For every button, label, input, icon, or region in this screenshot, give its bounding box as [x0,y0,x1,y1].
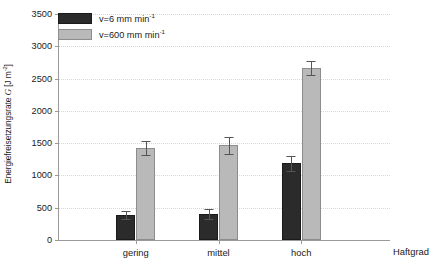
y-tick-label: 3500 [32,9,52,19]
y-tick-label: 3000 [32,41,52,51]
y-tick-label: 2000 [32,106,52,116]
y-axis-title-units-exponent: -2 [2,66,8,71]
x-axis-title: Haftgrad [393,246,429,257]
y-tick-label: 1500 [32,138,52,148]
x-tick-label-gering: gering [123,247,149,258]
bar-gering-series-1 [136,148,155,240]
error-bar-hoch-series-1 [311,61,312,75]
y-tick-mark [55,208,59,209]
error-bar-hoch-series-0 [291,156,292,171]
error-bar-cap-upper [307,61,316,62]
error-bar-cap-upper [204,209,213,210]
error-bar-cap-upper [224,137,233,138]
error-bar-gering-series-1 [146,141,147,155]
error-bar-mittel-series-1 [229,137,230,154]
y-gridline [59,111,390,112]
y-axis-title: Energiefreisetzungsrate G [J m-2] [2,4,16,244]
y-tick-mark [55,46,59,47]
error-bar-gering-series-0 [126,211,127,219]
y-tick-mark [55,143,59,144]
y-tick-label: 1000 [32,170,52,180]
y-axis-title-symbol: G [3,89,13,96]
error-bar-cap-lower [121,219,130,220]
plot-area: 0500100015002000250030003500geringmittel… [58,14,390,241]
x-tick-label-mittel: mittel [207,247,229,258]
y-tick-mark [55,240,59,241]
error-bar-cap-lower [224,154,233,155]
y-gridline [59,143,390,144]
y-gridline [59,79,390,80]
legend-swatch-icon-0 [58,13,92,24]
legend-label-0: v=6 mm min-1 [99,12,155,24]
y-axis-title-prefix: Energiefreisetzungsrate [3,95,13,183]
legend-entry-0: v=6 mm min-1 [58,12,165,24]
bar-mittel-series-1 [219,145,238,240]
error-bar-cap-lower [307,75,316,76]
error-bar-cap-lower [204,219,213,220]
y-tick-label: 2500 [32,74,52,84]
x-tick-mark [301,240,302,244]
error-bar-cap-lower [287,171,296,172]
y-tick-mark [55,79,59,80]
y-tick-mark [55,111,59,112]
bar-hoch-series-1 [302,68,321,240]
y-gridline [59,46,390,47]
bar-hoch-series-0 [282,163,301,240]
error-bar-mittel-series-0 [209,209,210,219]
error-bar-cap-upper [287,156,296,157]
chart-container: Energiefreisetzungsrate G [J m-2] 050010… [0,0,447,266]
y-axis-title-units: [J m [3,71,13,89]
legend-label-1: v=600 mm min-1 [99,28,165,40]
x-tick-label-hoch: hoch [291,247,311,258]
chart-legend: v=6 mm min-1 v=600 mm min-1 [58,12,165,40]
legend-entry-1: v=600 mm min-1 [58,28,165,40]
x-tick-mark [136,240,137,244]
error-bar-cap-upper [141,141,150,142]
x-tick-mark [219,240,220,244]
y-tick-mark [55,175,59,176]
error-bar-cap-lower [141,155,150,156]
error-bar-cap-upper [121,211,130,212]
legend-swatch-icon-1 [58,29,92,40]
y-tick-label: 500 [37,203,52,213]
y-axis-title-units-close: ] [3,64,13,66]
y-tick-label: 0 [47,235,52,245]
